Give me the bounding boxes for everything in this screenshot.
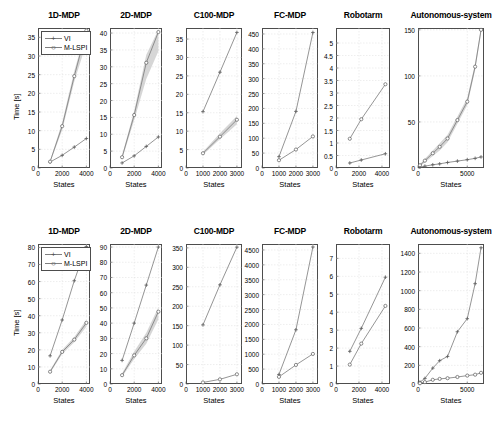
y-tick-label: 4500 (234, 246, 259, 253)
legend-plus-icon: + (45, 250, 62, 259)
x-tick-label: 2000 (55, 386, 69, 393)
y-tick-label: 7 (310, 255, 333, 262)
x-tick-label: 0 (260, 170, 264, 177)
chart-panel: Robotarm00.511.522.533.544.55020004000St… (310, 0, 398, 216)
marker-circle (48, 160, 51, 163)
y-tick-label: 1200 (388, 269, 415, 276)
y-tick-label: 250 (234, 90, 259, 97)
plot-canvas (336, 28, 390, 168)
marker-plus (384, 275, 388, 279)
marker-circle (446, 377, 449, 380)
marker-circle (201, 152, 204, 155)
marker-circle (133, 113, 136, 116)
marker-plus (277, 155, 281, 159)
y-tick-label: 35 (158, 36, 183, 43)
x-axis-label: States (333, 396, 393, 405)
y-tick-label: 5 (310, 291, 333, 298)
legend-label: VI (64, 35, 71, 42)
marker-plus (473, 282, 477, 286)
y-tick-label: 2.5 (310, 102, 333, 109)
marker-circle (360, 342, 363, 345)
y-tick-label: 200 (388, 362, 415, 369)
marker-plus (144, 283, 148, 287)
y-tick-label: 350 (234, 60, 259, 67)
marker-circle (431, 378, 434, 381)
x-tick-label: 2000 (55, 170, 69, 177)
marker-circle (418, 382, 421, 385)
y-tick-label: 30 (158, 54, 183, 61)
marker-circle (418, 164, 421, 167)
y-tick-label: 100 (388, 72, 415, 79)
y-tick-label: 25 (158, 72, 183, 79)
marker-circle (145, 61, 148, 64)
series-line (420, 373, 481, 383)
marker-circle (133, 354, 136, 357)
marker-circle (348, 137, 351, 140)
legend-label: M-LSPI (64, 260, 87, 267)
x-tick-label: 1000 (272, 386, 286, 393)
marker-circle (479, 28, 482, 31)
marker-plus (120, 161, 124, 165)
marker-circle (61, 125, 64, 128)
y-tick-label: 200 (158, 303, 183, 310)
chart-panel: Robotarm01234567020004000States (310, 216, 398, 432)
y-tick-label: 150 (234, 120, 259, 127)
y-tick-label: 10 (6, 363, 35, 370)
y-tick-label: 150 (388, 26, 415, 33)
marker-circle (201, 381, 204, 384)
plot-canvas (110, 244, 162, 384)
chart-legend: +VI○M-LSPI (41, 247, 91, 271)
marker-circle (360, 118, 363, 121)
y-tick-label: 30 (84, 335, 107, 342)
y-tick-label: 50 (6, 295, 35, 302)
y-tick-label: 20 (84, 97, 107, 104)
figure-row-bottom: 1D-MDP01020304050607080020004000StatesTi… (0, 216, 487, 432)
marker-plus (446, 355, 450, 359)
x-tick-label: 2000 (352, 386, 366, 393)
y-tick-label: 30 (84, 63, 107, 70)
x-tick-label: 5000 (460, 170, 474, 177)
marker-plus (473, 157, 477, 161)
y-tick-label: 0 (84, 165, 107, 172)
y-tick-label: 50 (158, 361, 183, 368)
marker-plus (359, 327, 363, 331)
y-tick-label: 0 (310, 381, 333, 388)
y-tick-label: 20 (6, 346, 35, 353)
legend-entry: ○M-LSPI (45, 43, 87, 52)
legend-label: VI (64, 251, 71, 258)
marker-circle (120, 156, 123, 159)
x-tick-label: 2000 (213, 170, 227, 177)
y-tick-label: 50 (234, 150, 259, 157)
y-tick-label: 40 (84, 320, 107, 327)
marker-circle (120, 374, 123, 377)
marker-circle (73, 338, 76, 341)
y-tick-label: 0.5 (310, 152, 333, 159)
marker-circle (438, 145, 441, 148)
y-tick-label: 400 (388, 343, 415, 350)
x-axis-label: States (333, 180, 393, 189)
y-tick-label: 50 (84, 304, 107, 311)
chart-legend: +VI○M-LSPI (41, 31, 91, 55)
marker-circle (61, 350, 64, 353)
y-tick-label: 30 (6, 53, 35, 60)
y-tick-label: 60 (84, 289, 107, 296)
x-axis-label: States (421, 180, 481, 189)
x-tick-label: 0 (334, 170, 338, 177)
x-tick-label: 2000 (352, 170, 366, 177)
y-tick-label: 0 (234, 381, 259, 388)
y-tick-label: 0 (388, 381, 415, 388)
y-tick-label: 3 (310, 90, 333, 97)
marker-circle (277, 159, 280, 162)
y-tick-label: 15 (84, 114, 107, 121)
marker-plus (294, 328, 298, 332)
marker-plus (423, 164, 427, 168)
x-tick-label: 2000 (127, 386, 141, 393)
marker-plus (60, 318, 64, 322)
y-tick-label: 25 (6, 71, 35, 78)
y-tick-label: 500 (234, 366, 259, 373)
marker-circle (466, 374, 469, 377)
plot-canvas (336, 244, 390, 384)
x-tick-label: 1000 (272, 170, 286, 177)
y-tick-label: 3500 (234, 276, 259, 283)
